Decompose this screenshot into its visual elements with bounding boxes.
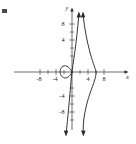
y-tick-label-pos8: 8 bbox=[61, 20, 64, 27]
y-tick-label-pos4: 4 bbox=[61, 36, 64, 43]
curve-left-branch bbox=[66, 17, 78, 131]
x-tick-label-neg4: -4 bbox=[53, 75, 58, 82]
graph-figure: x y -8 -4 4 8 8 4 -4 -8 bbox=[0, 0, 136, 144]
y-tick-label-neg8: -8 bbox=[59, 108, 64, 115]
plot-canvas: x y -8 -4 4 8 8 4 -4 -8 bbox=[0, 0, 136, 144]
curve-right-branch bbox=[83, 17, 96, 131]
x-tick-label-pos8: 8 bbox=[103, 75, 106, 82]
arrow-right-branch-up bbox=[81, 12, 86, 18]
arrow-left-branch-up bbox=[77, 12, 82, 18]
y-axis-label: y bbox=[65, 4, 69, 11]
x-tick-label-neg8: -8 bbox=[37, 75, 42, 82]
x-axis-label: x bbox=[125, 73, 129, 80]
y-tick-label-neg4: -4 bbox=[59, 92, 64, 99]
x-tick-label-pos4: 4 bbox=[87, 75, 90, 82]
arrow-left-branch-down bbox=[64, 130, 69, 136]
arrow-right-branch-down bbox=[81, 130, 86, 136]
